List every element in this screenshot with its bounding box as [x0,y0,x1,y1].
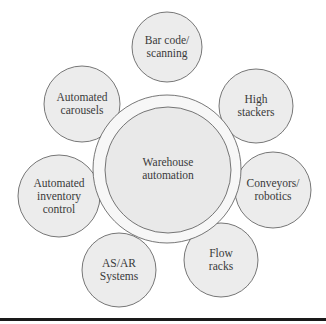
node-label-line: inventory [33,190,84,203]
node-label-line: control [33,203,84,216]
node-label-high-stackers: Highstackers [237,93,274,119]
node-label-line: Automated [56,91,107,104]
bottom-rule [0,318,326,321]
node-label-line: stackers [237,106,274,119]
node-label-flow-racks: Flowracks [209,247,233,273]
node-label-line: Bar code/ [145,34,189,47]
node-label-automated-inventory-control: Automatedinventorycontrol [33,177,84,216]
center-label-line-1: Warehouse [142,156,194,169]
node-label-line: Automated [33,177,84,190]
node-label-line: Systems [100,270,138,283]
center-label-line-2: automation [142,169,194,182]
node-label-line: robotics [246,190,299,203]
node-label-line: Conveyors/ [246,177,299,190]
node-label-line: High [237,93,274,106]
center-label: Warehouse automation [142,156,194,182]
node-label-line: carousels [56,104,107,117]
node-label-line: racks [209,260,233,273]
node-label-line: Flow [209,247,233,260]
node-label-line: scanning [145,47,189,60]
node-label-bar-code-scanning: Bar code/scanning [145,34,189,60]
node-label-automated-carousels: Automatedcarousels [56,91,107,117]
node-label-line: AS/AR [100,257,138,270]
node-label-conveyors-robotics: Conveyors/robotics [246,177,299,203]
node-label-as-ar-systems: AS/ARSystems [100,257,138,283]
